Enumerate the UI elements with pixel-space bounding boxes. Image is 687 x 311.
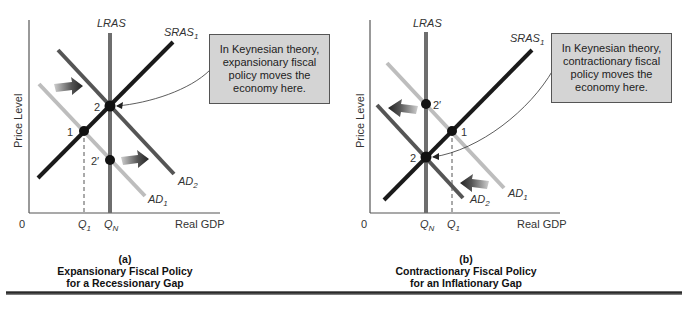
connector-arrowhead-icon: [116, 102, 123, 109]
point-1-label: 1: [461, 126, 467, 138]
x-axis-label: Real GDP: [517, 218, 567, 230]
y-axis-label: Price Level: [354, 94, 366, 148]
panel-a-graph: LRAS SRAS1 AD2 AD1 1 2 2′ Price Level 0 …: [12, 17, 225, 233]
ad1-curve: [39, 84, 145, 196]
q1-tick-label: Q1: [78, 218, 91, 233]
shift-left-arrow-icon: [460, 174, 489, 192]
shift-right-arrow-icon: [121, 150, 149, 168]
caption-b-title: Contractionary Fiscal Policy: [356, 265, 576, 277]
shift-left-arrow-icon: [388, 99, 418, 117]
caption-a-title: Expansionary Fiscal Policy: [15, 265, 235, 277]
point-2: [421, 152, 432, 163]
qn-tick-label: QN: [420, 218, 435, 233]
point-2-prime: [105, 155, 115, 165]
ad2-label: AD2: [177, 175, 198, 190]
point-2-prime-label: 2′: [433, 99, 441, 111]
sras-curve: [384, 50, 532, 200]
callout-connector: [433, 70, 553, 157]
point-2: [105, 101, 116, 112]
caption-b-letter: (b): [356, 253, 576, 265]
ad2-curve: [58, 50, 174, 174]
sras-curve: [38, 42, 173, 178]
shift-right-arrow-icon: [54, 77, 83, 95]
ad1-label: AD1: [507, 187, 528, 202]
sras-label: SRAS1: [164, 26, 198, 41]
y-axis-label: Price Level: [12, 94, 24, 148]
ad1-curve: [387, 63, 504, 188]
origin-label: 0: [19, 218, 25, 230]
ad2-curve: [377, 105, 463, 198]
sras-label: SRAS1: [510, 32, 544, 47]
panel-b-graph: LRAS SRAS1 AD2 AD1 2′ 1 2 Price Level 0 …: [354, 17, 567, 233]
point-2-prime: [421, 99, 431, 109]
caption-b-subtitle: for an Inflationary Gap: [356, 277, 576, 289]
caption-a: (a) Expansionary Fiscal Policy for a Rec…: [15, 253, 235, 289]
point-2-label: 2: [94, 101, 100, 113]
callout-connector: [117, 70, 210, 106]
q1-tick-label: Q1: [447, 218, 460, 233]
lras-label: LRAS: [97, 17, 126, 29]
point-1-label: 1: [67, 126, 73, 138]
callout-box-a: In Keynesian theory, expansionary fiscal…: [209, 34, 330, 104]
ad2-label: AD2: [469, 193, 490, 208]
caption-b: (b) Contractionary Fiscal Policy for an …: [356, 253, 576, 289]
callout-box-b: In Keynesian theory, contractionary fisc…: [551, 33, 672, 103]
lras-label: LRAS: [413, 17, 442, 29]
point-1: [447, 126, 457, 136]
qn-tick-label: QN: [104, 218, 119, 233]
x-axis-label: Real GDP: [175, 218, 225, 230]
origin-label: 0: [361, 218, 367, 230]
connector-arrowhead-icon: [432, 153, 439, 160]
point-1: [79, 126, 89, 136]
caption-a-subtitle: for a Recessionary Gap: [15, 277, 235, 289]
point-2-label: 2: [410, 152, 416, 164]
bottom-rule-divider: [6, 291, 682, 295]
caption-a-letter: (a): [15, 253, 235, 265]
point-2-prime-label: 2′: [91, 155, 99, 167]
ad1-label: AD1: [147, 193, 168, 208]
